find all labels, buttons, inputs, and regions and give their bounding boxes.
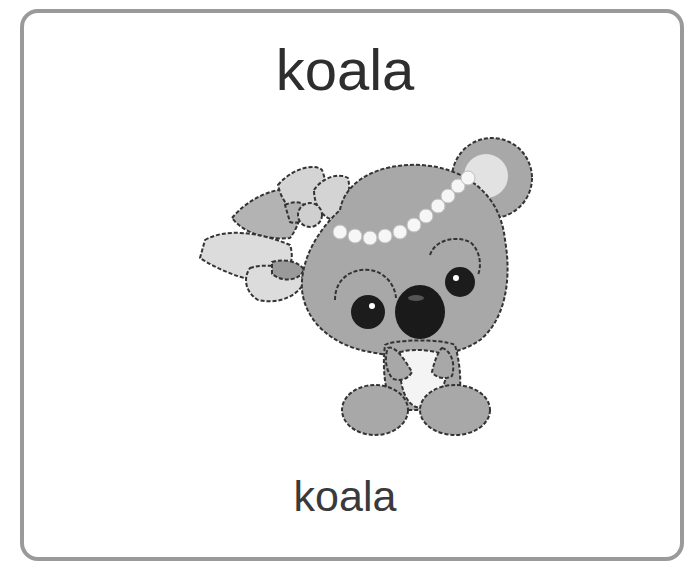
koala-foot-left (342, 385, 408, 435)
koala-eye-left (351, 295, 385, 329)
koala-nose (395, 285, 445, 339)
koala-eye-right (445, 267, 475, 297)
koala-foot-right (420, 385, 490, 435)
card-label: koala (0, 470, 690, 522)
